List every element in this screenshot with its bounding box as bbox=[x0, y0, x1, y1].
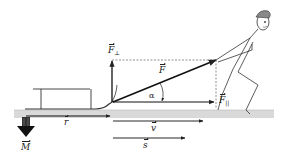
label-text: M bbox=[21, 143, 30, 152]
label-displacement: s bbox=[143, 141, 148, 150]
label-text: F bbox=[219, 96, 225, 105]
label-text: α bbox=[149, 91, 154, 100]
sled bbox=[25, 89, 114, 109]
label-velocity: v bbox=[151, 124, 156, 133]
label-force-parallel: F|| bbox=[219, 96, 229, 106]
label-weight: M bbox=[21, 143, 30, 152]
weight-arrow bbox=[17, 117, 35, 137]
rope-hook bbox=[112, 85, 117, 101]
label-subscript: || bbox=[225, 99, 229, 106]
ground bbox=[14, 110, 274, 118]
label-force: F bbox=[159, 66, 165, 75]
label-text: v bbox=[151, 124, 156, 133]
label-text: F bbox=[108, 46, 114, 55]
label-friction: r bbox=[64, 118, 68, 127]
label-text: F bbox=[159, 66, 165, 75]
label-text: s bbox=[143, 141, 148, 150]
label-text: r bbox=[64, 118, 68, 127]
sled-pull-diagram bbox=[0, 0, 283, 162]
label-force-perpendicular: F⊥ bbox=[108, 46, 120, 56]
label-subscript: ⊥ bbox=[114, 49, 120, 56]
angle-arc bbox=[160, 83, 163, 101]
label-angle: α bbox=[149, 91, 154, 100]
